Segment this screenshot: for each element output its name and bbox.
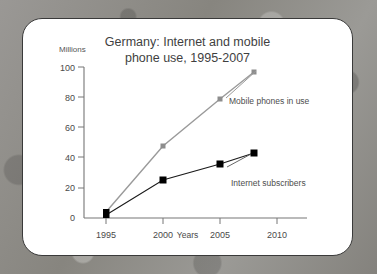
data-point-internet-2008 — [251, 150, 258, 157]
leader-line-mobile-phones — [226, 71, 256, 98]
chart-card: Germany: Internet and mobile phone use, … — [22, 18, 353, 256]
data-point-mobile-2000 — [161, 144, 166, 149]
series-line-internet-subscribers — [106, 153, 254, 215]
data-point-internet-2005 — [217, 161, 224, 168]
chart-plot — [23, 19, 354, 257]
data-point-internet-2000 — [160, 177, 167, 184]
data-point-mobile-2005 — [218, 97, 223, 102]
data-point-internet-1995 — [103, 209, 110, 218]
